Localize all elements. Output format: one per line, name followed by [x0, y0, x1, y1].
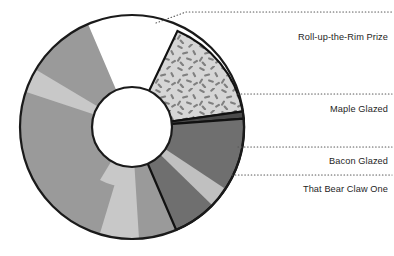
leader-line-roll-up-the-rim-prize [156, 12, 392, 23]
label-maple-glazed: Maple Glazed [330, 104, 388, 114]
donut-chart: Roll-up-the-Rim Prize Maple Glazed Bacon… [0, 0, 394, 256]
label-bacon-glazed: Bacon Glazed [329, 156, 388, 166]
label-that-bear-claw-one: That Bear Claw One [303, 184, 388, 194]
label-roll-up-the-rim-prize: Roll-up-the-Rim Prize [298, 32, 388, 42]
chart-canvas: Roll-up-the-Rim Prize Maple Glazed Bacon… [0, 0, 394, 256]
donut-inner-hole [92, 87, 172, 167]
